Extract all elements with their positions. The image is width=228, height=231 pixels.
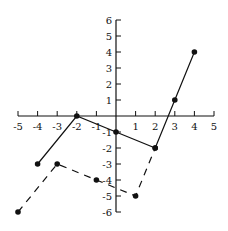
x-tick-label: -5 bbox=[13, 121, 23, 132]
data-point bbox=[133, 193, 139, 199]
data-point bbox=[94, 177, 100, 183]
data-point bbox=[54, 161, 60, 167]
data-point bbox=[152, 145, 158, 151]
y-tick-label: -5 bbox=[102, 191, 112, 202]
x-tick-label: -2 bbox=[72, 121, 82, 132]
y-tick-label: 3 bbox=[106, 63, 112, 74]
y-tick-label: 2 bbox=[106, 79, 112, 90]
x-tick-label: 2 bbox=[152, 121, 158, 132]
x-tick-label: -3 bbox=[52, 121, 62, 132]
y-tick-label: -2 bbox=[102, 143, 112, 154]
line-chart: -5-4-3-2-112345654321-1-2-3-4-5-6 bbox=[0, 0, 228, 231]
x-tick-label: 1 bbox=[132, 121, 138, 132]
data-point bbox=[172, 97, 178, 103]
y-tick-label: -4 bbox=[102, 175, 112, 186]
x-tick-label: -4 bbox=[33, 121, 43, 132]
x-tick-label: 5 bbox=[211, 121, 217, 132]
x-tick-label: 3 bbox=[172, 121, 178, 132]
y-tick-label: 4 bbox=[106, 47, 112, 58]
data-point bbox=[113, 129, 119, 135]
data-point bbox=[74, 113, 80, 119]
y-tick-label: 5 bbox=[106, 31, 112, 42]
axes bbox=[18, 20, 214, 212]
data-point bbox=[192, 49, 198, 55]
x-tick-label: -1 bbox=[92, 121, 102, 132]
data-point bbox=[35, 161, 41, 167]
y-tick-label: -6 bbox=[102, 207, 112, 218]
y-tick-label: -1 bbox=[102, 127, 112, 138]
y-tick-label: 6 bbox=[106, 15, 112, 26]
x-tick-label: 4 bbox=[191, 121, 197, 132]
y-tick-label: -3 bbox=[102, 159, 112, 170]
y-tick-label: 1 bbox=[106, 95, 112, 106]
data-point bbox=[15, 209, 21, 215]
dashed-series-line bbox=[18, 148, 155, 212]
